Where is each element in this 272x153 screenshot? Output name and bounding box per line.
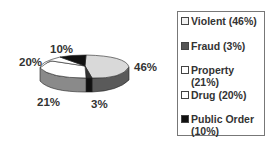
legend-swatch-icon xyxy=(181,17,189,25)
chart-legend: Violent (46%) Fraud (3%) Property (21%) … xyxy=(177,11,265,136)
legend-item-violent: Violent (46%) xyxy=(181,15,264,40)
legend-swatch-icon xyxy=(181,115,189,123)
legend-swatch-icon xyxy=(181,91,189,99)
label-property: 21% xyxy=(37,96,60,108)
legend-item-drug: Drug (20%) xyxy=(181,89,264,114)
legend-label: Drug (20%) xyxy=(191,89,246,101)
slice-fraud-side xyxy=(86,78,92,92)
legend-label: Violent (46%) xyxy=(191,15,257,27)
label-violent: 46% xyxy=(134,61,157,73)
pie-chart: 10% 20% 46% 21% 3% xyxy=(0,0,170,153)
legend-item-property: Property (21%) xyxy=(181,64,264,89)
label-fraud: 3% xyxy=(91,98,108,110)
legend-swatch-icon xyxy=(181,66,189,74)
legend-label: Property (21%) xyxy=(191,64,264,88)
legend-item-fraud: Fraud (3%) xyxy=(181,40,264,65)
legend-swatch-icon xyxy=(181,42,189,50)
legend-label: Public Order (10%) xyxy=(191,113,264,137)
legend-label: Fraud (3%) xyxy=(191,40,245,52)
label-public-order: 10% xyxy=(50,43,73,55)
label-drug: 20% xyxy=(19,56,42,68)
pie-graphic xyxy=(0,0,170,153)
legend-item-public-order: Public Order (10%) xyxy=(181,113,264,143)
